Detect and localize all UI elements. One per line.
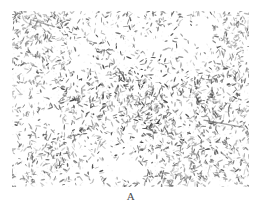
figure-panel: A [0, 0, 262, 209]
panel-label: A [0, 189, 262, 203]
micrograph-image [12, 11, 249, 187]
micrograph-canvas [12, 11, 249, 187]
